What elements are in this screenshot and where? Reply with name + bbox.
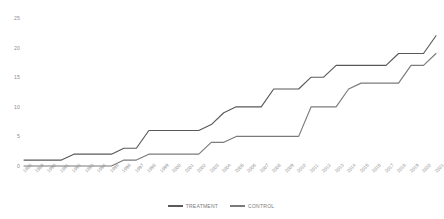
chart-legend: TREATMENTCONTROL — [0, 203, 442, 209]
y-tick-label: 20 — [2, 45, 20, 51]
y-tick-label: 10 — [2, 104, 20, 110]
legend-item-control[interactable]: CONTROL — [230, 203, 274, 209]
legend-swatch-icon — [168, 205, 183, 206]
y-tick-label: 15 — [2, 74, 20, 80]
legend-swatch-icon — [230, 205, 245, 206]
legend-label: TREATMENT — [186, 203, 218, 209]
legend-label: CONTROL — [248, 203, 274, 209]
plot-area — [24, 18, 436, 166]
y-tick-label: 0 — [2, 163, 20, 169]
y-tick-label: 5 — [2, 133, 20, 139]
plot-svg — [24, 18, 436, 166]
legend-item-treatment[interactable]: TREATMENT — [168, 203, 218, 209]
series-line-treatment — [24, 36, 436, 160]
y-tick-label: 25 — [2, 15, 20, 21]
